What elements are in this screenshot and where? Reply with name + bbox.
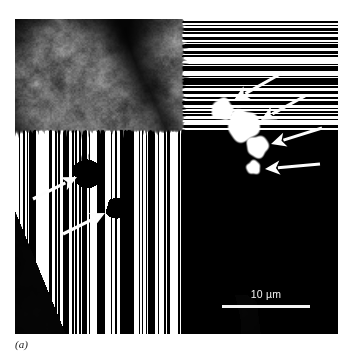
scale-bar-line bbox=[222, 305, 310, 308]
micrograph-canvas bbox=[15, 19, 338, 334]
figure-panel-a: 10 µm (a) bbox=[0, 0, 348, 354]
scale-bar: 10 µm bbox=[222, 288, 310, 316]
panel-caption: (a) bbox=[15, 338, 28, 351]
micrograph-image: 10 µm bbox=[15, 19, 338, 334]
scale-bar-label: 10 µm bbox=[222, 288, 310, 300]
